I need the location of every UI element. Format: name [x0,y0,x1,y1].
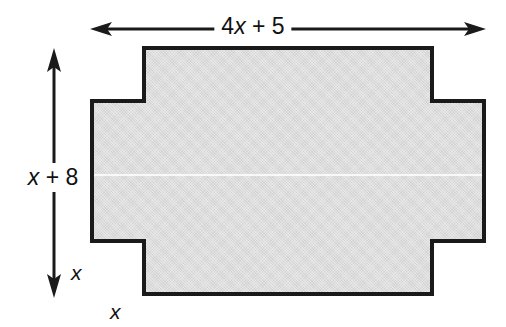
width-label-coefficient: 4 [221,13,234,39]
corner-square-top-right [430,46,486,103]
corner-square-top-left [90,46,146,103]
corner-bottom-label: x [110,301,121,322]
width-label-constant: 5 [272,13,285,39]
width-label-variable: x [234,13,246,39]
geometry-figure: 4x + 5 x + 8 x x [0,0,506,327]
height-label-operator: + [46,164,59,190]
corner-square-bottom-right [430,239,486,296]
width-label: 4x + 5 [214,13,291,40]
outer-rectangle [90,46,486,296]
corner-side-label: x [71,262,82,283]
corner-square-bottom-left [90,239,146,296]
width-label-operator: + [252,13,265,39]
height-label: x + 8 [22,163,85,192]
height-label-variable: x [28,164,40,190]
height-label-constant: 8 [65,164,78,190]
